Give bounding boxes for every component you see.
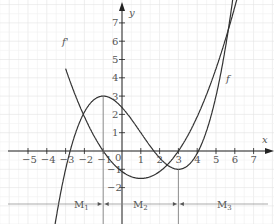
y-tick-label: −2	[107, 182, 122, 193]
plot-area: −5−4−3−2−11234567−2−11234567 x y f' f 0 …	[0, 0, 274, 224]
y-tick-label: 6	[112, 36, 118, 47]
curves	[54, 0, 238, 224]
y-tick-label: 2	[112, 109, 118, 120]
x-tick-label: −2	[78, 154, 93, 165]
m1-label: M1	[74, 199, 89, 212]
y-tick-label: 1	[112, 127, 118, 138]
function-graph: −5−4−3−2−11234567−2−11234567 x y f' f 0 …	[0, 0, 274, 224]
fprime-label: f'	[61, 36, 68, 47]
x-tick-label: −5	[22, 154, 37, 165]
x-tick-label: 1	[138, 154, 144, 165]
origin-label: 0	[115, 152, 121, 163]
y-tick-label: 5	[112, 54, 118, 65]
y-tick-label: 7	[112, 17, 118, 28]
m2-label: M2	[133, 199, 148, 212]
x-tick-label: 3	[175, 154, 181, 165]
y-axis-label: y	[128, 7, 135, 18]
fprime-curve	[66, 0, 238, 178]
x-axis-label: x	[262, 134, 268, 145]
f-label: f	[225, 73, 232, 84]
x-tick-label: 7	[251, 154, 257, 165]
x-tick-label: −4	[41, 154, 56, 165]
x-tick-label: 6	[232, 154, 238, 165]
x-tick-label: 5	[213, 154, 219, 165]
m3-label: M3	[217, 199, 232, 212]
grid	[0, 0, 274, 224]
y-tick-label: 4	[112, 72, 118, 83]
